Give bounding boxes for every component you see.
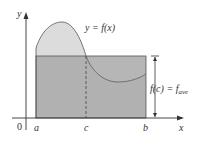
y-axis-arrow-icon <box>24 12 29 19</box>
tick-label-a: a <box>34 122 39 133</box>
y-axis-label: y <box>16 8 22 19</box>
tick-label-b: b <box>143 122 148 133</box>
bracket-arrow-down-icon <box>153 113 157 117</box>
height-label-sub: ave <box>178 88 188 96</box>
bracket-arrow-up-icon <box>153 57 157 61</box>
x-axis-arrow-icon <box>177 116 184 121</box>
tick-label-c: c <box>84 122 89 133</box>
x-axis-label: x <box>178 122 184 133</box>
curve-label: y = f(x) <box>84 22 116 34</box>
mvt-diagram: y x 0 a c b y = f(x) f(c) = fave <box>0 0 205 144</box>
height-label: f(c) = fave <box>150 83 188 96</box>
origin-label: 0 <box>17 121 22 132</box>
